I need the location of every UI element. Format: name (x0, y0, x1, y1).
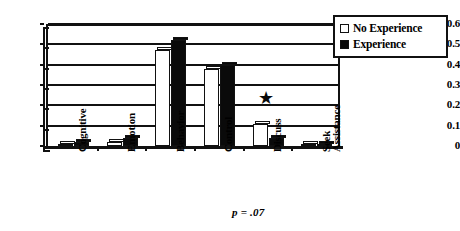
y-axis-tick-mark (40, 125, 44, 127)
gridline (48, 64, 340, 66)
bar (204, 66, 219, 146)
gridline (48, 84, 340, 86)
bar (58, 141, 73, 146)
bar-front-face (253, 124, 268, 146)
x-axis-category-label: Cognitive (77, 76, 87, 152)
gridline-wall-segment (43, 47, 49, 49)
x-axis-tick-mark (291, 146, 293, 151)
bar-chart-figure: 00.10.20.30.40.50.6 CognitiveEmotionBeha… (0, 0, 460, 231)
bar-front-face (155, 50, 170, 146)
y-axis-tick-label: 0.1 (420, 120, 460, 131)
gridline (48, 104, 340, 106)
x-axis-tick-mark (194, 146, 196, 151)
x-axis-category-label: Seek Assistance (321, 76, 341, 152)
legend-entry-no-experience: No Experience (340, 20, 442, 36)
bar-front-face (301, 144, 316, 146)
x-axis-line (43, 146, 343, 149)
y-axis-tick-label: 0.4 (420, 59, 460, 70)
legend-entry-experience: Experience (340, 36, 442, 52)
bar (155, 47, 170, 146)
y-axis-tick-mark (40, 84, 44, 86)
gridline-wall-segment (43, 129, 49, 131)
y-axis-tick-mark (40, 145, 44, 147)
bar (301, 141, 316, 146)
x-axis-tick-mark (145, 146, 147, 151)
chart-legend: No Experience Experience (333, 15, 448, 58)
y-axis-tick-label: 0.2 (420, 99, 460, 110)
white-square-icon (340, 24, 349, 33)
p-value-annotation: p = .07 (232, 206, 264, 218)
gridline-wall-segment (43, 108, 49, 110)
axis-base-connector (43, 144, 50, 152)
y-axis-tick-label: 0 (420, 140, 460, 151)
x-axis-category-label: Control (223, 76, 233, 152)
bar (253, 121, 268, 146)
gridline (48, 23, 340, 25)
gridline (48, 43, 340, 45)
x-axis-category-label: Emotion (126, 76, 136, 152)
gridline-wall-segment (43, 27, 49, 29)
black-square-icon (340, 40, 349, 49)
gridline (48, 125, 340, 127)
x-axis-category-label: Behavior (175, 76, 185, 152)
x-axis-tick-mark (243, 146, 245, 151)
bar-front-face (107, 142, 122, 146)
legend-label-experience: Experience (353, 38, 406, 50)
y-axis-tick-mark (40, 43, 44, 45)
bar-front-face (58, 144, 73, 146)
bar-front-face (204, 69, 219, 146)
legend-label-no-experience: No Experience (353, 22, 422, 34)
y-axis-tick-label: 0.3 (420, 79, 460, 90)
significance-star-icon: ★ (258, 89, 274, 107)
x-axis-tick-mark (97, 146, 99, 151)
bar (107, 139, 122, 146)
gridline-wall-segment (43, 88, 49, 90)
y-axis-tick-mark (40, 104, 44, 106)
y-axis-tick-mark (40, 64, 44, 66)
y-axis-tick-mark (40, 23, 44, 25)
gridline-wall-segment (43, 68, 49, 70)
